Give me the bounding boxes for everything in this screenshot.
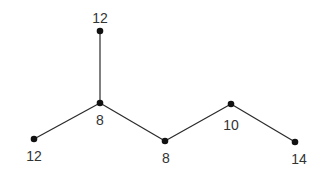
edges <box>34 31 295 142</box>
node-label: 8 <box>162 150 170 166</box>
edge-n_rmid-n_right <box>231 104 295 142</box>
node-n_center <box>97 100 104 107</box>
node-n_right <box>292 139 299 146</box>
edge-n_center-n_mid <box>100 103 165 141</box>
nodes <box>31 28 299 146</box>
node-n_top <box>97 28 104 35</box>
node-label: 12 <box>92 10 108 26</box>
node-n_rmid <box>228 101 235 108</box>
tree-diagram: 1281281014 <box>0 0 319 174</box>
edge-n_center-n_left <box>34 103 100 139</box>
node-label: 10 <box>223 117 239 133</box>
node-label: 12 <box>26 148 42 164</box>
node-label: 8 <box>96 112 104 128</box>
node-label: 14 <box>291 151 307 167</box>
edge-n_mid-n_rmid <box>165 104 231 141</box>
node-n_mid <box>162 138 169 145</box>
node-n_left <box>31 136 38 143</box>
